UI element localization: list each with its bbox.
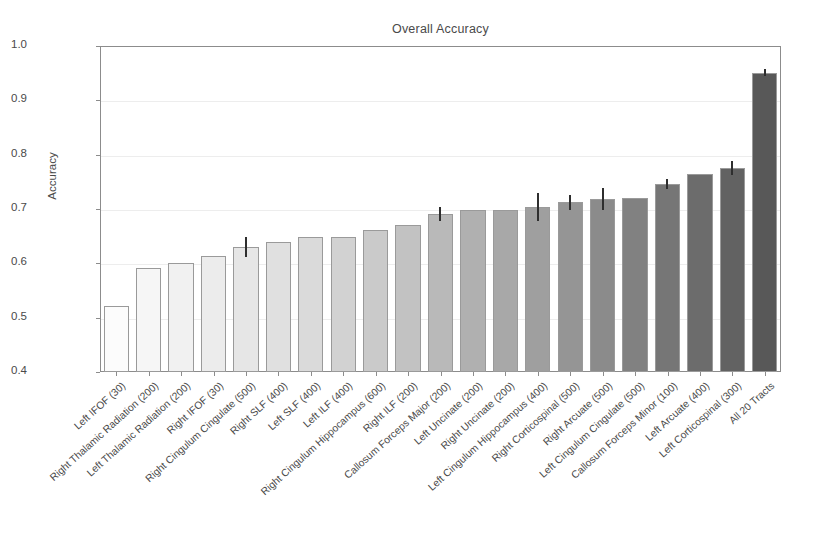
x-tick-label: Right SLF (400) — [282, 331, 343, 388]
x-tick-label-text: Right IFOF (30) — [164, 380, 225, 436]
x-axis-labels: Left IFOF (30)Right Thalamic Radiation (… — [0, 0, 813, 540]
x-tick-label-text: Right SLF (400) — [228, 380, 289, 437]
chart-figure: Overall Accuracy Accuracy 1.00.90.80.70.… — [0, 0, 813, 540]
x-tick-label-text: Left Cingulum Hippocampus (400) — [426, 380, 549, 493]
x-tick-label: Right IFOF (30) — [218, 332, 279, 388]
